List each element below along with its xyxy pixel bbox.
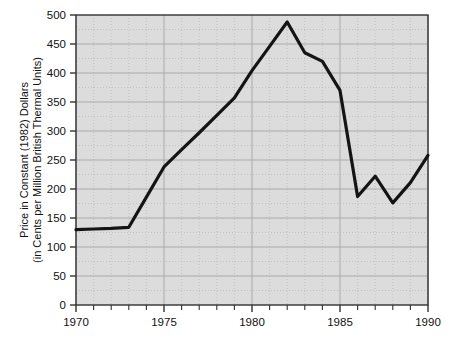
y-tick-label: 300 xyxy=(47,125,66,137)
y-tick-label: 400 xyxy=(47,67,66,79)
y-tick-label: 250 xyxy=(47,154,66,166)
y-tick-label: 200 xyxy=(47,183,66,195)
x-tick-label: 1990 xyxy=(415,316,441,328)
y-tick-label: 500 xyxy=(47,9,66,21)
y-axis-title-line-2: (in Cents per Million British Thermal Un… xyxy=(31,57,43,263)
y-tick-label: 100 xyxy=(47,241,66,253)
y-tick-label: 450 xyxy=(47,38,66,50)
y-axis-title: Price in Constant (1982) Dollars (in Cen… xyxy=(18,57,43,263)
line-chart: 19701975198019851990 0501001502002503003… xyxy=(0,0,450,344)
chart-container: 19701975198019851990 0501001502002503003… xyxy=(0,0,450,344)
x-tick-label: 1970 xyxy=(63,316,89,328)
y-tick-label: 350 xyxy=(47,96,66,108)
x-tick-label: 1980 xyxy=(239,316,265,328)
x-tick-label: 1975 xyxy=(151,316,177,328)
y-tick-label: 0 xyxy=(60,299,66,311)
x-tick-label: 1985 xyxy=(327,316,353,328)
y-tick-label: 50 xyxy=(53,270,66,282)
y-axis-title-line-1: Price in Constant (1982) Dollars xyxy=(18,82,30,238)
y-tick-label: 150 xyxy=(47,212,66,224)
